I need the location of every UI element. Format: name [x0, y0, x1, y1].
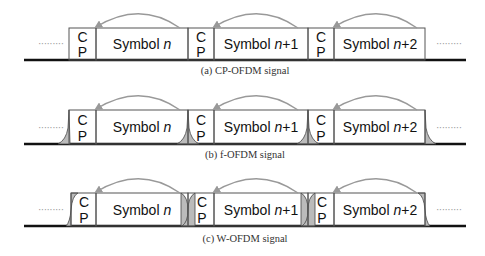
- symbol-label-n-plus-1: Symbol n+1: [224, 119, 299, 135]
- cp-label: C: [196, 29, 206, 45]
- panel-f-ofdm: ········· ········· C P Symbol n C P Sym…: [24, 96, 466, 161]
- caption-a: (a) CP-OFDM signal: [201, 65, 290, 77]
- symbol-label-n: Symbol n: [113, 202, 172, 218]
- symbol-label-n: Symbol n: [113, 36, 172, 52]
- cp-label: C: [196, 112, 206, 128]
- cp-label: P: [78, 44, 87, 60]
- symbol-label-n: Symbol n: [113, 119, 172, 135]
- ellipsis-right: ·········: [436, 122, 462, 133]
- cp-copy-arrow: [96, 14, 180, 28]
- symbol-label-n-plus-2: Symbol n+2: [343, 202, 418, 218]
- ellipsis-right: ·········: [436, 38, 462, 49]
- cp-label: P: [79, 210, 88, 226]
- cp-label: P: [196, 128, 205, 144]
- cp-label: C: [79, 194, 89, 210]
- cp-label: C: [317, 194, 327, 210]
- cp-label: C: [316, 112, 326, 128]
- cp-label: P: [316, 44, 325, 60]
- cp-copy-arrow: [214, 14, 298, 28]
- cp-label: P: [316, 128, 325, 144]
- window-ramp: [418, 193, 430, 226]
- panel-w-ofdm: ········· ········· C P Symbol n C P Sym…: [24, 179, 466, 245]
- symbol-label-n-plus-2: Symbol n+2: [343, 36, 418, 52]
- ofdm-signal-diagram: ········· ········· C P Symbol n C P Sym…: [0, 0, 485, 256]
- cp-label: P: [196, 44, 205, 60]
- cp-label: P: [78, 128, 87, 144]
- cp-label: P: [317, 210, 326, 226]
- cp-label: C: [77, 112, 87, 128]
- panel-cp-ofdm: ········· ········· C P Symbol n C P Sym…: [24, 14, 466, 77]
- ellipsis-left: ·········: [38, 122, 64, 133]
- cp-copy-arrow: [96, 96, 180, 110]
- cp-label: P: [197, 210, 206, 226]
- cp-copy-arrow: [96, 179, 180, 193]
- window-ramp: [66, 193, 78, 226]
- cp-copy-arrow: [334, 179, 417, 193]
- cp-copy-arrow: [334, 96, 417, 110]
- cp-copy-arrow: [214, 96, 298, 110]
- cp-label: C: [316, 29, 326, 45]
- cp-label: C: [197, 194, 207, 210]
- cp-copy-arrow: [334, 14, 417, 28]
- caption-c: (c) W-OFDM signal: [203, 233, 288, 245]
- cp-copy-arrow: [214, 179, 298, 193]
- filter-tail: [425, 110, 436, 144]
- cp-label: C: [77, 29, 87, 45]
- symbol-label-n-plus-2: Symbol n+2: [343, 119, 418, 135]
- symbol-label-n-plus-1: Symbol n+1: [224, 36, 299, 52]
- ellipsis-left: ·········: [38, 204, 64, 215]
- ellipsis-left: ·········: [38, 38, 64, 49]
- ellipsis-right: ·········: [436, 204, 462, 215]
- caption-b: (b) f-OFDM signal: [205, 149, 285, 161]
- symbol-label-n-plus-1: Symbol n+1: [224, 202, 299, 218]
